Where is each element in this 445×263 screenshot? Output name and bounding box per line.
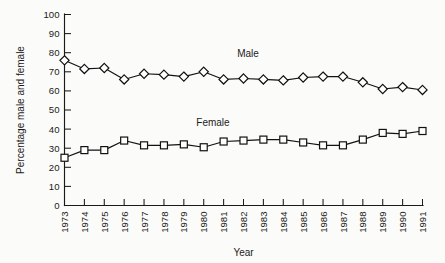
data-point-marker: [179, 72, 188, 81]
series-label-female: Female: [196, 117, 230, 128]
y-tick-label: 100: [43, 9, 59, 20]
y-tick-label: 50: [49, 104, 60, 115]
data-point-marker: [200, 144, 207, 151]
x-tick-label: 1978: [159, 212, 170, 233]
y-tick-label: 0: [54, 200, 59, 211]
y-tick-label: 10: [49, 181, 60, 192]
x-tick-label: 1977: [139, 212, 150, 233]
data-point-marker: [141, 142, 148, 149]
y-axis: [65, 14, 72, 206]
data-point-marker: [240, 137, 247, 144]
x-tick-label: 1985: [298, 212, 309, 233]
data-point-marker: [239, 74, 248, 83]
x-tick-label: 1987: [338, 212, 349, 233]
y-tick-label: 80: [49, 47, 60, 58]
data-point-marker: [419, 128, 426, 135]
data-point-marker: [219, 75, 228, 84]
data-point-marker: [358, 78, 367, 87]
data-point-marker: [398, 82, 407, 91]
y-tick-label: 40: [49, 124, 60, 135]
x-tick-label: 1986: [318, 212, 329, 233]
data-point-marker: [280, 136, 287, 143]
x-tick-labels: 1973197419751976197719781979198019811982…: [59, 211, 428, 233]
data-point-marker: [338, 72, 347, 81]
x-axis-title: Year: [233, 247, 254, 258]
data-point-marker: [80, 64, 89, 73]
data-point-marker: [300, 139, 307, 146]
y-tick-label: 90: [49, 28, 60, 39]
series-female: [61, 128, 426, 162]
y-tick-label: 20: [49, 162, 60, 173]
y-tick-label: 30: [49, 143, 60, 154]
data-point-marker: [81, 147, 88, 154]
x-tick-label: 1983: [258, 212, 269, 233]
data-point-marker: [101, 147, 108, 154]
x-tick-label: 1988: [357, 212, 368, 233]
y-tick-label: 70: [49, 66, 60, 77]
x-tick-label: 1979: [178, 212, 189, 233]
data-point-marker: [120, 75, 129, 84]
x-tick-label: 1982: [238, 212, 249, 233]
data-point-marker: [260, 136, 267, 143]
data-point-marker: [121, 137, 128, 144]
x-tick-label: 1991: [417, 212, 428, 233]
data-point-marker: [60, 56, 69, 65]
data-point-marker: [199, 67, 208, 76]
data-point-marker: [379, 129, 386, 136]
data-point-marker: [339, 142, 346, 149]
series-label-male: Male: [237, 48, 259, 59]
y-axis-title: Percentage male and female: [15, 46, 26, 174]
series-male: [60, 56, 427, 95]
x-tick-label: 1989: [377, 212, 388, 233]
y-tick-label: 60: [49, 85, 60, 96]
data-point-marker: [100, 63, 109, 72]
x-tick-label: 1974: [79, 211, 90, 233]
x-tick-label: 1976: [119, 212, 130, 233]
data-point-marker: [139, 69, 148, 78]
data-series: [60, 56, 427, 162]
data-point-marker: [279, 76, 288, 85]
data-point-marker: [220, 138, 227, 145]
x-tick-label: 1981: [218, 212, 229, 233]
data-point-marker: [399, 130, 406, 137]
data-point-marker: [159, 70, 168, 79]
data-point-marker: [61, 154, 68, 161]
data-point-marker: [180, 141, 187, 148]
data-point-marker: [160, 142, 167, 149]
data-point-marker: [359, 136, 366, 143]
data-point-marker: [378, 84, 387, 93]
x-tick-label: 1973: [59, 212, 70, 233]
series-annotations: MaleFemale: [196, 48, 259, 128]
x-tick-label: 1980: [198, 212, 209, 233]
data-point-marker: [320, 142, 327, 149]
data-point-marker: [259, 75, 268, 84]
figure-container: 0102030405060708090100 19731974197519761…: [0, 0, 445, 263]
x-tick-label: 1984: [278, 211, 289, 233]
x-axis: [65, 199, 424, 206]
data-point-marker: [318, 72, 327, 81]
line-chart: 0102030405060708090100 19731974197519761…: [0, 0, 445, 263]
x-tick-label: 1975: [99, 212, 110, 233]
data-point-marker: [299, 73, 308, 82]
x-tick-label: 1990: [397, 212, 408, 233]
data-point-marker: [418, 85, 427, 94]
y-tick-labels: 0102030405060708090100: [43, 9, 59, 211]
